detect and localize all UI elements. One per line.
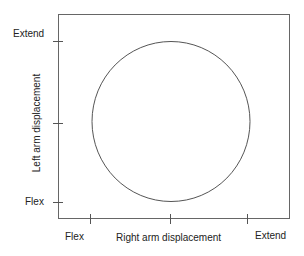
- phase-circle: [92, 42, 250, 202]
- x-tick-flex: Flex: [65, 231, 84, 242]
- plot-frame: [59, 15, 290, 219]
- x-tick-extend: Extend: [255, 230, 286, 241]
- y-axis-label: Left arm displacement: [31, 74, 42, 172]
- y-tick-flex: Flex: [25, 196, 44, 207]
- phase-plot: [0, 0, 304, 256]
- x-axis-label: Right arm displacement: [116, 232, 221, 243]
- y-tick-extend: Extend: [13, 28, 44, 39]
